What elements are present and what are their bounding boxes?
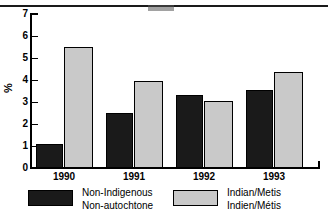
bar-1990-indian-metis xyxy=(64,47,93,168)
bar-chart: 7 6 5 4 3 2 1 0 % 1990 1991 1992 1993 xyxy=(0,0,328,185)
bar-1991-indian-metis xyxy=(134,81,163,168)
bar-1993-non-indigenous xyxy=(246,90,273,168)
y-tick-label-1: 1 xyxy=(6,141,28,151)
bar-1992-indian-metis xyxy=(204,101,233,168)
y-tick-5: 5 xyxy=(0,53,28,63)
legend-label-indian-metis: Indian/Metis Indien/Métis xyxy=(227,186,281,212)
x-axis-right-cap xyxy=(318,161,320,168)
legend-label-non-indigenous-fr: Non-autochtone xyxy=(82,199,153,212)
bar-1991-non-indigenous xyxy=(106,113,133,168)
y-tick-mark-2 xyxy=(32,124,38,125)
bar-1990-non-indigenous xyxy=(36,144,63,168)
y-tick-label-5: 5 xyxy=(6,53,28,63)
y-axis-top-cap xyxy=(32,13,38,15)
x-tick-label-1991: 1991 xyxy=(104,171,164,183)
bar-1992-non-indigenous xyxy=(176,95,203,168)
y-tick-mark-5 xyxy=(32,58,38,59)
y-tick-7: 7 xyxy=(0,9,28,19)
x-tick-label-1992: 1992 xyxy=(174,171,234,183)
y-axis-title: % xyxy=(2,76,14,100)
legend-swatch-indian-metis xyxy=(173,190,218,206)
y-tick-label-6: 6 xyxy=(6,31,28,41)
y-tick-mark-6 xyxy=(32,36,38,37)
legend-label-indian-metis-fr: Indien/Métis xyxy=(227,199,281,212)
x-tick-label-1990: 1990 xyxy=(34,171,94,183)
y-tick-2: 2 xyxy=(0,119,28,129)
y-tick-0: 0 xyxy=(0,163,28,173)
bar-1993-indian-metis xyxy=(274,72,303,168)
chart-legend: Non-Indigenous Non-autochtone Indian/Met… xyxy=(0,186,328,217)
y-tick-6: 6 xyxy=(0,31,28,41)
legend-label-non-indigenous-en: Non-Indigenous xyxy=(82,186,153,199)
y-tick-label-2: 2 xyxy=(6,119,28,129)
y-tick-label-0: 0 xyxy=(6,163,28,173)
legend-label-non-indigenous: Non-Indigenous Non-autochtone xyxy=(82,186,153,212)
y-tick-1: 1 xyxy=(0,141,28,151)
y-tick-mark-3 xyxy=(32,102,38,103)
x-tick-label-1993: 1993 xyxy=(244,171,304,183)
legend-label-indian-metis-en: Indian/Metis xyxy=(227,186,281,199)
y-tick-label-7: 7 xyxy=(6,9,28,19)
y-tick-mark-4 xyxy=(32,80,38,81)
legend-swatch-non-indigenous xyxy=(28,190,73,206)
